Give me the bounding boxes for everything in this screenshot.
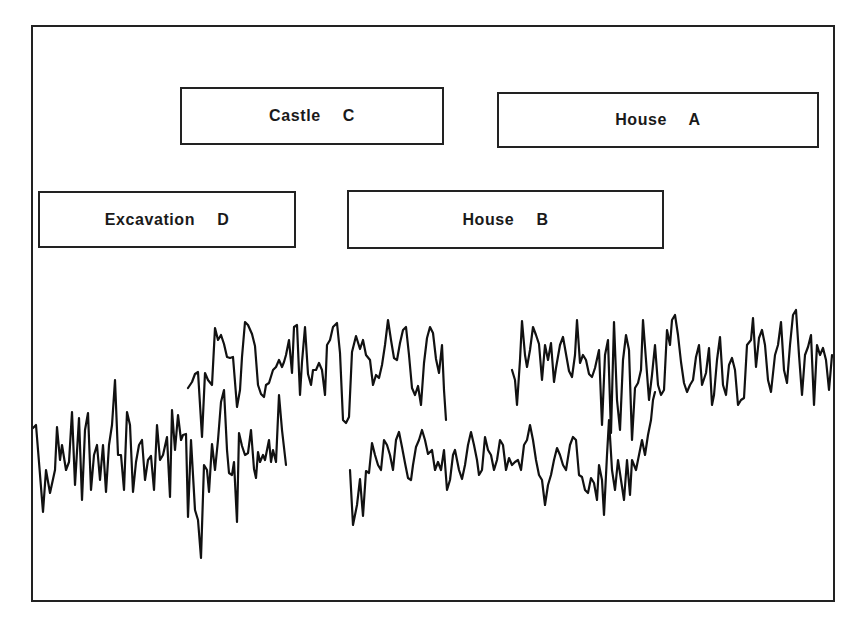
series-castle-c [188, 320, 446, 437]
series-house-a [512, 310, 854, 440]
tree-ring-series-layer [0, 0, 860, 634]
series-excavation-d [33, 380, 286, 558]
